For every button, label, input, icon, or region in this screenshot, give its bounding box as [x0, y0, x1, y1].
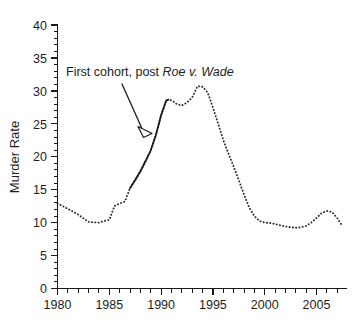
- murder-rate-chart: 0 5 10 15 20 25 30 35 40: [0, 0, 357, 330]
- chart-canvas: 0 5 10 15 20 25 30 35 40: [0, 0, 357, 330]
- y-tick-label: 10: [33, 216, 47, 230]
- annotation-label: First cohort, post Roe v. Wade: [66, 65, 234, 79]
- x-axis-tick-labels: 1980 1985 1990 1995 2000 2005: [44, 298, 331, 312]
- y-tick-label: 0: [40, 282, 47, 296]
- x-tick-label: 2005: [303, 298, 331, 312]
- y-axis-title: Murder Rate: [7, 121, 22, 193]
- y-tick-label: 25: [33, 118, 47, 132]
- y-axis-tick-labels: 0 5 10 15 20 25 30 35 40: [33, 19, 47, 297]
- x-tick-label: 1990: [147, 298, 175, 312]
- y-tick-label: 30: [33, 85, 47, 99]
- y-tick-label: 40: [33, 19, 47, 33]
- annotation-label-prefix: First cohort, post: [66, 65, 163, 79]
- y-axis-ticks: [51, 25, 58, 289]
- y-tick-label: 20: [33, 150, 47, 164]
- annotation-label-emphasis: Roe v. Wade: [163, 65, 234, 79]
- annotation-arrowhead-icon: [138, 127, 152, 138]
- x-tick-label: 2000: [251, 298, 279, 312]
- series-line-solid-highlight: [130, 100, 169, 189]
- x-tick-label: 1985: [95, 298, 123, 312]
- y-tick-label: 15: [33, 183, 47, 197]
- x-tick-label: 1995: [199, 298, 227, 312]
- series-line-dotted: [58, 86, 343, 228]
- y-tick-label: 35: [33, 52, 47, 66]
- x-axis-ticks: [58, 289, 338, 296]
- annotation-leader-line: [122, 84, 142, 128]
- x-tick-label: 1980: [44, 298, 72, 312]
- y-tick-label: 5: [40, 249, 47, 263]
- annotation-first-cohort: First cohort, post Roe v. Wade: [66, 65, 234, 138]
